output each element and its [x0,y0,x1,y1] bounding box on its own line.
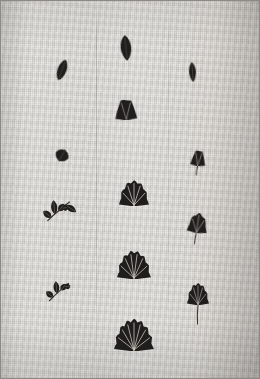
specimen-c3-s1 [171,39,212,105]
specimen-c2-s4 [103,226,165,301]
specimen-c2-s5 [100,294,168,373]
specimen-c2-s2 [100,73,152,143]
specimen-c1-s3 [31,171,93,245]
cloth-seam-left [96,0,97,379]
photographic-plate [0,0,260,379]
specimen-c2-s3 [105,156,163,228]
cloth-seam-right [168,0,169,379]
specimen-c3-s4 [173,259,223,327]
specimen-c1-s4 [33,253,91,325]
specimen-c3-s3 [170,186,227,258]
specimen-c3-s2 [173,124,222,190]
